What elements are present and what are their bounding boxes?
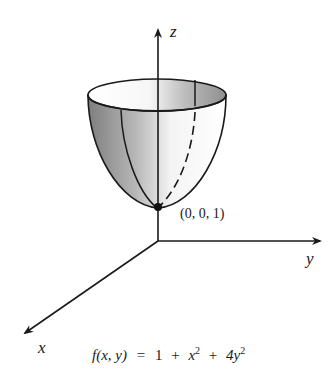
paraboloid-figure: z y x (0, 0, 1) f(x, y) = 1 + x2 + 4y2 [0, 0, 334, 385]
vertex-point [154, 203, 162, 211]
formula-term-1: 1 [155, 347, 163, 363]
formula-lhs: f(x, y) [92, 347, 127, 363]
formula-exp-y: 2 [240, 345, 245, 356]
formula-plus-2: + [209, 347, 217, 363]
vertex-point-label: (0, 0, 1) [180, 206, 224, 222]
x-axis-label: x [38, 338, 46, 358]
function-formula: f(x, y) = 1 + x2 + 4y2 [92, 347, 245, 364]
diagram-canvas [0, 0, 334, 385]
formula-exp-x: 2 [195, 345, 200, 356]
formula-term-4y: 4y [226, 347, 240, 363]
formula-plus-1: + [171, 347, 179, 363]
y-axis-label: y [306, 249, 314, 269]
formula-equals: = [137, 347, 145, 363]
z-axis-label: z [170, 22, 177, 42]
bowl-surface [88, 95, 226, 208]
x-axis [25, 241, 158, 333]
